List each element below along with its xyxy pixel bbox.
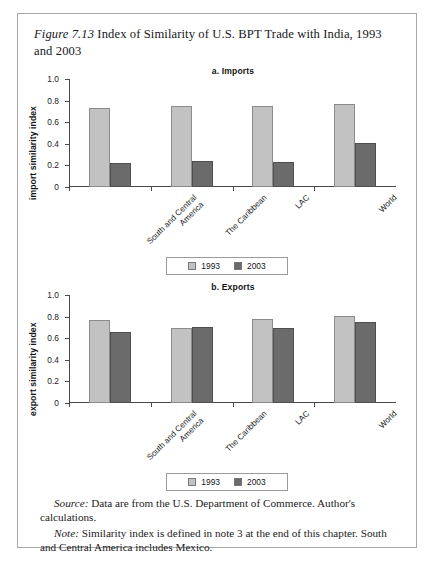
legend-label-1993: 1993 — [201, 477, 220, 487]
legend-item-2003: 2003 — [234, 477, 266, 487]
y-axis-tick: 0.4 — [65, 144, 69, 145]
chart-panel-imports: a. Imports import similarity index 00.20… — [18, 66, 418, 261]
bar-1993-south-and-central-america — [89, 108, 110, 187]
source-text: Data are from the U.S. Department of Com… — [40, 497, 355, 523]
x-axis-tick — [151, 187, 152, 191]
legend-item-1993: 1993 — [188, 477, 220, 487]
y-axis-tick-label: 1.0 — [47, 74, 59, 84]
x-axis-category-label: South and CentralAmerica — [145, 193, 205, 253]
legend-exports: 1993 2003 — [166, 473, 288, 491]
figure-number: Figure 7.13 — [34, 27, 94, 41]
legend-imports: 1993 2003 — [166, 257, 288, 275]
bar-1993-lac — [252, 106, 273, 187]
chart-title-imports: a. Imports — [18, 66, 418, 76]
plot-area-imports: 00.20.40.60.81.0South and CentralAmerica… — [69, 79, 396, 187]
y-axis-tick-label: 0.8 — [47, 312, 59, 322]
y-axis-tick-label: 0.4 — [47, 355, 59, 365]
y-axis-tick-label: 1.0 — [47, 290, 59, 300]
figure-page: Figure 7.13 Index of Similarity of U.S. … — [17, 13, 417, 548]
legend-item-2003: 2003 — [234, 261, 266, 271]
bar-2003-the-caribbean — [192, 327, 213, 403]
chart-title-exports: b. Exports — [18, 282, 418, 292]
y-axis-tick: 0.6 — [65, 338, 69, 339]
explanatory-note: Note: Similarity index is defined in not… — [40, 526, 398, 555]
bar-2003-world — [355, 322, 376, 403]
note-label: Note: — [54, 527, 79, 539]
legend-swatch-1993 — [188, 262, 196, 270]
x-axis-tick — [233, 187, 234, 191]
chart-panel-exports: b. Exports export similarity index 00.20… — [18, 282, 418, 477]
legend-label-2003: 2003 — [247, 261, 266, 271]
legend-swatch-2003 — [234, 262, 242, 270]
y-axis-title-imports: import similarity index — [28, 106, 38, 200]
bar-1993-the-caribbean — [171, 328, 192, 403]
y-axis-tick-label: 0 — [54, 182, 59, 192]
bar-2003-world — [355, 143, 376, 187]
legend-swatch-1993 — [188, 478, 196, 486]
y-axis-tick-label: 0.6 — [47, 333, 59, 343]
y-axis-tick: 0.2 — [65, 381, 69, 382]
bar-1993-world — [334, 316, 355, 403]
figure-notes: Source: Data are from the U.S. Departmen… — [40, 496, 398, 556]
x-axis-category-label: LAC — [294, 193, 312, 211]
bar-2003-lac — [273, 162, 294, 187]
x-axis-tick — [69, 187, 70, 191]
x-axis-category-label: World — [377, 409, 399, 431]
y-axis-tick: 0.2 — [65, 165, 69, 166]
figure-caption: Figure 7.13 Index of Similarity of U.S. … — [34, 26, 400, 59]
x-axis-tick — [151, 403, 152, 407]
bar-2003-south-and-central-america — [110, 332, 131, 403]
y-axis-tick-label: 0.2 — [47, 160, 59, 170]
y-axis-tick-label: 0.8 — [47, 96, 59, 106]
legend-item-1993: 1993 — [188, 261, 220, 271]
x-axis-category-label: South and CentralAmerica — [145, 409, 205, 469]
y-axis-tick: 0.4 — [65, 360, 69, 361]
x-axis-tick — [314, 403, 315, 407]
x-axis-category-label: The Caribbean — [223, 409, 268, 454]
source-label: Source: — [54, 497, 88, 509]
y-axis-line — [69, 295, 70, 403]
y-axis-tick: 1.0 — [65, 79, 69, 80]
y-axis-tick: 0.6 — [65, 122, 69, 123]
y-axis-title-exports: export similarity index — [28, 322, 38, 416]
legend-swatch-2003 — [234, 478, 242, 486]
y-axis-tick-label: 0.4 — [47, 139, 59, 149]
bar-2003-lac — [273, 328, 294, 403]
x-axis-tick — [233, 403, 234, 407]
x-axis-category-label: LAC — [294, 409, 312, 427]
y-axis-line — [69, 79, 70, 187]
y-axis-tick-label: 0 — [54, 398, 59, 408]
bar-1993-south-and-central-america — [89, 320, 110, 403]
x-axis-tick — [69, 403, 70, 407]
y-axis-tick: 0.8 — [65, 101, 69, 102]
y-axis-tick-label: 0.6 — [47, 117, 59, 127]
y-axis-tick: 0.8 — [65, 317, 69, 318]
note-text: Similarity index is defined in note 3 at… — [40, 527, 387, 553]
x-axis-category-label: The Caribbean — [223, 193, 268, 238]
bar-1993-the-caribbean — [171, 106, 192, 187]
bar-1993-world — [334, 104, 355, 187]
plot-area-exports: 00.20.40.60.81.0South and CentralAmerica… — [69, 295, 396, 403]
legend-label-1993: 1993 — [201, 261, 220, 271]
bar-1993-lac — [252, 319, 273, 403]
bar-2003-the-caribbean — [192, 161, 213, 187]
legend-label-2003: 2003 — [247, 477, 266, 487]
x-axis-tick — [314, 187, 315, 191]
y-axis-tick-label: 0.2 — [47, 376, 59, 386]
x-axis-category-label: World — [377, 193, 399, 215]
bar-2003-south-and-central-america — [110, 163, 131, 187]
source-note: Source: Data are from the U.S. Departmen… — [40, 496, 398, 525]
y-axis-tick: 1.0 — [65, 295, 69, 296]
